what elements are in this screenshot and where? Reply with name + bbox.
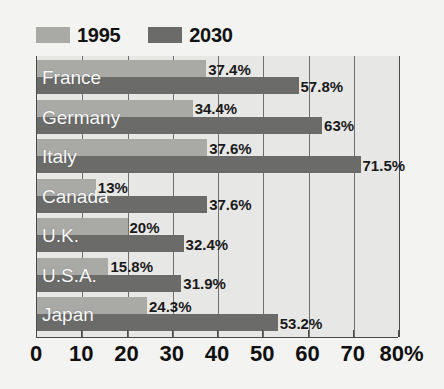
x-axis: 01020304050607080%	[36, 337, 398, 387]
x-tick-50	[262, 330, 263, 337]
bar-value-label: 37.6%	[209, 197, 252, 212]
bar-row: 37.4%57.8%France	[37, 60, 399, 96]
bar-canada-2030: 37.6%	[37, 196, 207, 213]
bar-value-label: 13%	[98, 180, 128, 195]
legend-label-1995: 1995	[77, 25, 120, 45]
bar-japan-2030: 53.2%	[37, 314, 278, 331]
x-tick-70	[353, 330, 354, 337]
bar-row: 34.4%63%Germany	[37, 100, 399, 136]
legend-label-2030: 2030	[189, 25, 232, 45]
bar-row: 24.3%53.2%Japan	[37, 297, 399, 333]
bar-value-label: 53.2%	[280, 315, 323, 330]
bar-value-label: 32.4%	[186, 236, 229, 251]
bar-uk-1995: 20%	[37, 218, 128, 235]
legend-swatch-1995	[36, 27, 70, 43]
bar-france-2030: 57.8%	[37, 77, 299, 94]
legend-item-1995: 1995	[36, 25, 120, 45]
x-tick-30	[172, 330, 173, 337]
bar-germany-2030: 63%	[37, 117, 322, 134]
x-tick-label-50: 50	[250, 343, 274, 365]
bar-value-label: 57.8%	[301, 78, 344, 93]
x-tick-20	[127, 330, 128, 337]
chart-plot-area: 37.4%57.8%France34.4%63%Germany37.6%71.5…	[36, 56, 399, 337]
x-tick-10	[81, 330, 82, 337]
x-tick-0	[36, 330, 37, 337]
x-tick-60	[308, 330, 309, 337]
bar-value-label: 37.6%	[209, 140, 252, 155]
x-axis-line	[36, 337, 398, 338]
legend-swatch-2030	[148, 27, 182, 43]
bar-value-label: 37.4%	[208, 61, 251, 76]
bar-row: 13%37.6%Canada	[37, 179, 399, 215]
bar-row: 37.6%71.5%Italy	[37, 139, 399, 175]
x-tick-40	[217, 330, 218, 337]
bar-value-label: 34.4%	[195, 101, 238, 116]
bar-row: 15.8%31.9%U.S.A.	[37, 258, 399, 294]
bar-value-label: 63%	[324, 118, 354, 133]
bar-japan-1995: 24.3%	[37, 297, 147, 314]
bar-row: 20%32.4%U.K.	[37, 218, 399, 254]
bar-usa-2030: 31.9%	[37, 275, 181, 292]
bar-italy-1995: 37.6%	[37, 139, 207, 156]
x-tick-label-60: 60	[295, 343, 319, 365]
x-tick-label-70: 70	[341, 343, 365, 365]
bar-value-label: 20%	[130, 219, 160, 234]
bar-value-label: 15.8%	[110, 259, 153, 274]
bar-value-label: 31.9%	[183, 276, 226, 291]
bar-france-1995: 37.4%	[37, 60, 206, 77]
legend-item-2030: 2030	[148, 25, 232, 45]
x-tick-label-80: 80%	[380, 343, 424, 365]
bar-canada-1995: 13%	[37, 179, 96, 196]
bar-rows: 37.4%57.8%France34.4%63%Germany37.6%71.5…	[37, 56, 399, 337]
bar-value-label: 71.5%	[363, 157, 406, 172]
bar-uk-2030: 32.4%	[37, 235, 184, 252]
x-tick-80	[398, 330, 399, 337]
x-tick-label-20: 20	[114, 343, 138, 365]
bar-value-label: 24.3%	[149, 298, 192, 313]
bar-germany-1995: 34.4%	[37, 100, 193, 117]
x-tick-label-40: 40	[205, 343, 229, 365]
bar-italy-2030: 71.5%	[37, 156, 361, 173]
chart-legend: 1995 2030	[36, 22, 233, 48]
x-tick-label-30: 30	[160, 343, 184, 365]
x-tick-label-0: 0	[30, 343, 42, 365]
bar-usa-1995: 15.8%	[37, 258, 108, 275]
gridline-80	[399, 56, 400, 337]
x-tick-label-10: 10	[69, 343, 93, 365]
